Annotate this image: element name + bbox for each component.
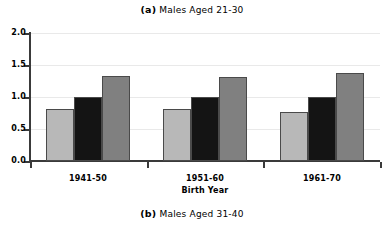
panel-a-tag: (a): [141, 4, 157, 15]
bar: [191, 97, 219, 161]
x-axis-category-label: 1961-70: [262, 174, 382, 183]
x-axis-label: Birth Year: [30, 186, 380, 195]
plot-area: [30, 33, 380, 161]
y-axis-tick-label: 1.0: [0, 92, 26, 101]
x-axis-tick: [380, 162, 382, 168]
bar: [46, 109, 74, 161]
y-axis-tick-label: 0.0: [0, 156, 26, 165]
bar: [336, 73, 364, 161]
bar: [308, 97, 336, 161]
bar: [74, 97, 102, 161]
y-axis-tick-label: 2.0: [0, 28, 26, 37]
panel-a-title: (a) Males Aged 21-30: [0, 4, 384, 15]
y-axis-tick-label: 0.5: [0, 124, 26, 133]
x-axis-tick: [263, 162, 265, 168]
bar: [280, 112, 308, 161]
x-axis-tick: [147, 162, 149, 168]
bar: [102, 76, 130, 161]
x-axis-category-label: 1951-60: [145, 174, 265, 183]
figure-bar-chart: (a) Males Aged 21-30 0.00.51.01.52.0 194…: [0, 0, 384, 227]
bar: [163, 109, 191, 161]
x-axis-tick: [30, 162, 32, 168]
panel-a-text: Males Aged 21-30: [159, 5, 243, 15]
x-axis-category-label: 1941-50: [28, 174, 148, 183]
y-axis-tick-label: 1.5: [0, 60, 26, 69]
panel-b-text: Males Aged 31-40: [159, 209, 243, 219]
panel-b-title: (b) Males Aged 31-40: [0, 208, 384, 219]
panel-b-tag: (b): [140, 208, 156, 219]
bar: [219, 77, 247, 161]
